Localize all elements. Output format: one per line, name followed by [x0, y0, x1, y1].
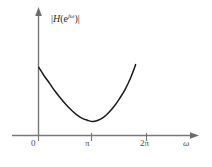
x-axis-arrowhead: [190, 132, 199, 139]
x-tick-label-twopi: 2π: [140, 139, 149, 148]
y-axis-label-magnitude: |H(ejω)|: [51, 14, 80, 24]
magnitude-response-figure: |H(ejω)| 0 π 2π ω: [0, 0, 212, 167]
x-tick-label-zero: 0: [31, 139, 36, 148]
x-tick-label-pi: π: [85, 139, 90, 148]
y-axis-arrowhead: [35, 7, 42, 16]
magnitude-response-curve: [39, 65, 136, 122]
magnitude-bar-close: |: [78, 13, 80, 24]
x-axis-label-omega: ω: [183, 139, 189, 148]
